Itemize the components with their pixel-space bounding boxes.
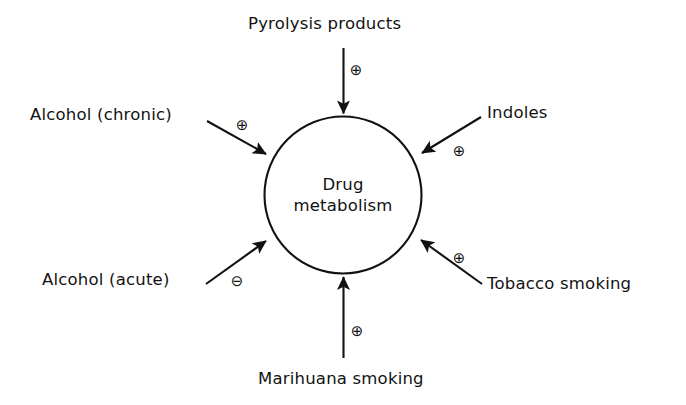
label-marihuana-smoking: Marihuana smoking: [258, 370, 424, 389]
label-pyrolysis-products: Pyrolysis products: [248, 15, 401, 34]
label-tobacco-smoking: Tobacco smoking: [487, 275, 631, 294]
plus-circle-icon-marihuana-smoking: ⊕: [351, 324, 364, 339]
arrow-tobacco-smoking: [421, 240, 482, 284]
label-indoles: Indoles: [487, 104, 548, 123]
plus-circle-icon-tobacco-smoking: ⊕: [453, 251, 466, 266]
minus-circle-icon-alcohol-acute: ⊖: [231, 274, 244, 289]
plus-circle-icon-alcohol-chronic: ⊕: [236, 118, 249, 133]
label-alcohol-acute: Alcohol (acute): [42, 271, 170, 290]
plus-circle-icon-pyrolysis-products: ⊕: [350, 63, 363, 78]
central-node-label: Drug metabolism: [293, 174, 392, 217]
plus-circle-icon-indoles: ⊕: [453, 144, 466, 159]
arrow-indoles: [422, 117, 481, 153]
diagram-canvas: Drug metabolism Pyrolysis products Alcoh…: [0, 0, 686, 405]
central-node-label-line2: metabolism: [293, 195, 392, 216]
label-alcohol-chronic: Alcohol (chronic): [30, 106, 172, 125]
central-node-label-line1: Drug: [293, 174, 392, 195]
